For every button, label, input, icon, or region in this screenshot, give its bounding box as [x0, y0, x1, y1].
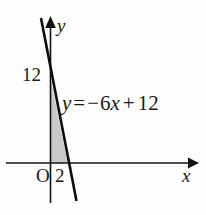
equation-constant: 12 [138, 91, 159, 115]
equation-equals: = [73, 91, 85, 115]
x-intercept-tick-label: 2 [55, 165, 65, 186]
equation-lhs: y [60, 91, 72, 115]
equation-plus: + [123, 91, 135, 115]
graph-figure: y x 12 O 2 y=−6x+12 [0, 0, 206, 215]
y-axis-arrow-icon [45, 16, 56, 28]
equation-slope-coefficient: 6 [100, 91, 111, 115]
x-axis-label: x [181, 165, 191, 186]
coordinate-plot: y x 12 O 2 y=−6x+12 [0, 0, 206, 215]
equation-variable: x [110, 91, 121, 115]
y-axis-label: y [55, 15, 66, 36]
y-intercept-tick-label: 12 [22, 64, 41, 85]
origin-label: O [36, 165, 50, 186]
equation-minus: − [87, 91, 99, 115]
equation-annotation: y=−6x+12 [60, 91, 159, 115]
